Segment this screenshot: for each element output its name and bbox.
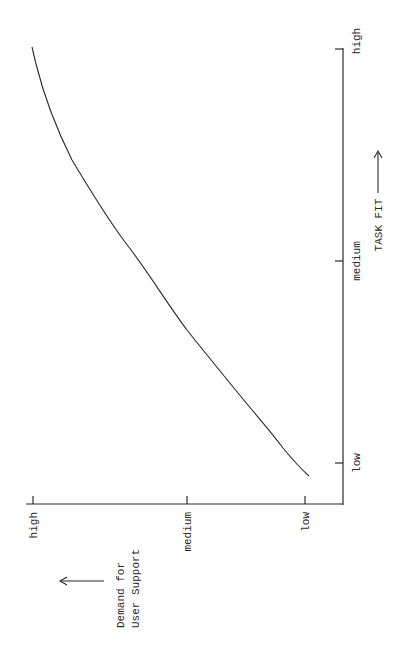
- y-tick-label-high: high: [28, 512, 40, 538]
- chart-canvas: low medium high TASK FIT low medium high…: [0, 0, 401, 660]
- y-tick-label-medium: medium: [182, 512, 194, 552]
- y-tick-label-low: low: [300, 512, 312, 532]
- y-axis-title-line2: User Support: [130, 549, 142, 628]
- y-axis-title-line1: Demand for: [115, 562, 127, 628]
- x-axis-title: TASK FIT: [373, 198, 385, 251]
- x-axis-arrow-icon: [374, 151, 382, 193]
- x-tick-label-medium: medium: [351, 241, 363, 281]
- x-tick-label-high: high: [351, 28, 363, 54]
- x-tick-label-low: low: [351, 453, 363, 473]
- y-axis-arrow-icon: [60, 577, 104, 585]
- demand-curve: [32, 47, 309, 476]
